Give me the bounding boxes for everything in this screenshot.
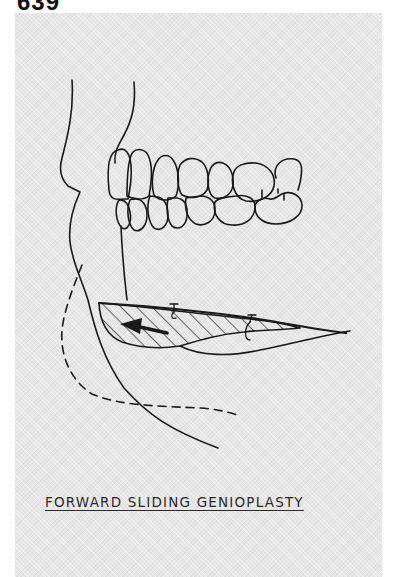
figure-caption: FORWARD SLIDING GENIOPLASTY xyxy=(45,494,304,510)
facial-profile-line xyxy=(60,80,218,448)
lower-dentition xyxy=(116,189,302,231)
upper-dentition xyxy=(108,149,301,201)
lower-incisor-root-line xyxy=(121,226,127,300)
genioplasty-illustration xyxy=(0,0,399,577)
